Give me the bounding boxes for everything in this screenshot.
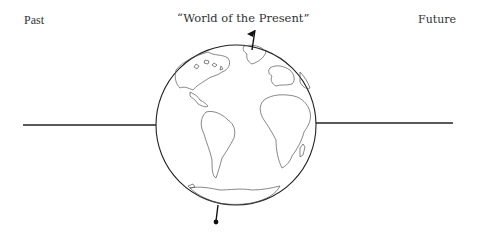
pin-marker-icon — [214, 205, 219, 224]
timeline-diagram — [0, 0, 477, 233]
globe-icon — [156, 45, 316, 205]
